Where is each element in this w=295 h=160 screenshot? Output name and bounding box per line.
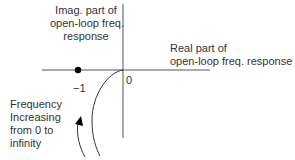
critical-point-label: −1 — [73, 82, 86, 95]
nyquist-curve — [92, 70, 123, 156]
real-axis-label-line: Real part of — [170, 42, 292, 55]
real-axis-label: Real part of open-loop freq. response — [170, 42, 292, 68]
frequency-note: Frequency Increasing from 0 to infinity — [10, 98, 62, 150]
critical-point — [75, 67, 81, 73]
frequency-note-line: infinity — [10, 137, 62, 150]
origin-label: 0 — [126, 74, 132, 87]
real-axis-label-line: open-loop freq. response — [170, 55, 292, 68]
imag-axis-label: Imag. part of open-loop freq. response — [50, 4, 122, 43]
imag-axis-label-line: open-loop freq. — [50, 17, 122, 30]
frequency-note-line: Increasing — [10, 111, 62, 124]
frequency-note-line: from 0 to — [10, 124, 62, 137]
imag-axis-label-line: response — [50, 30, 122, 43]
direction-arrowhead — [75, 116, 83, 126]
imag-axis-label-line: Imag. part of — [50, 4, 122, 17]
direction-arrow-curve — [77, 122, 85, 157]
frequency-note-line: Frequency — [10, 98, 62, 111]
